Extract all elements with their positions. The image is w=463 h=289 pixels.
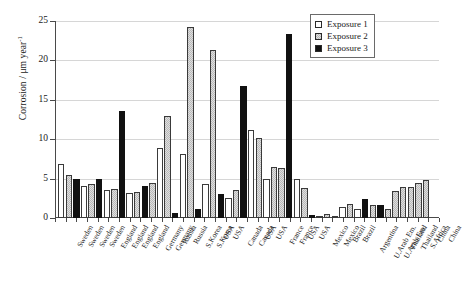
legend-swatch-exposure-2 [315, 33, 322, 40]
legend-item-exposure-3: Exposure 3 [315, 42, 368, 54]
legend-item-exposure-2: Exposure 2 [315, 30, 368, 42]
legend-swatch-exposure-1 [315, 21, 322, 28]
legend: Exposure 1 Exposure 2 Exposure 3 [310, 14, 375, 58]
legend-label-exposure-1: Exposure 1 [327, 19, 368, 29]
legend-swatch-exposure-3 [315, 45, 322, 52]
legend-item-exposure-1: Exposure 1 [315, 18, 368, 30]
legend-label-exposure-2: Exposure 2 [327, 31, 368, 41]
legend-label-exposure-3: Exposure 3 [327, 43, 368, 53]
